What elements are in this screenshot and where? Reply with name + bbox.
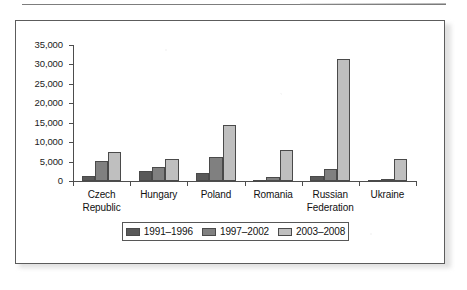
y-axis-tick-label: 5,000: [17, 157, 63, 167]
x-axis-category-label-line: Poland: [187, 189, 244, 202]
bar-5-1: [381, 179, 394, 181]
legend-label: 1991–1996: [144, 226, 193, 237]
x-axis-category-label-line: Russian: [302, 189, 359, 202]
x-axis-category-label: Hungary: [130, 189, 187, 202]
x-axis-category-tick: [187, 182, 188, 186]
bar-1-2: [165, 159, 178, 181]
bar-4-2: [337, 59, 350, 181]
x-axis-category-label-line: Hungary: [130, 189, 187, 202]
bar-0-0: [82, 176, 95, 181]
y-axis-tick-label: 20,000: [17, 98, 63, 108]
bar-3-1: [266, 177, 279, 181]
bar-4-0: [310, 176, 323, 181]
x-axis-category-label: Ukraine: [359, 189, 416, 202]
chart-legend: 1991–19961997–20022003–2008: [122, 222, 349, 241]
bar-1-0: [139, 171, 152, 181]
x-axis-category-label: Poland: [187, 189, 244, 202]
y-axis-tick-label: 10,000: [17, 137, 63, 147]
bar-1-1: [152, 167, 165, 181]
bar-0-1: [95, 161, 108, 181]
x-axis-category-label-line: Ukraine: [359, 189, 416, 202]
bar-5-0: [368, 180, 381, 182]
bar-chart-plot-area: 05,00010,00015,00020,00025,00030,00035,0…: [16, 21, 446, 265]
legend-swatch-icon: [202, 228, 216, 236]
x-axis-category-label-line: Republic: [73, 202, 130, 215]
y-axis-tick-mark: [69, 45, 73, 46]
y-axis-tick-label: 30,000: [17, 59, 63, 69]
legend-swatch-icon: [126, 228, 140, 236]
bar-3-0: [253, 180, 266, 182]
x-axis-category-tick: [130, 182, 131, 186]
y-axis-tick-label: 25,000: [17, 79, 63, 89]
x-axis-category-tick: [302, 182, 303, 186]
x-axis-category-tick: [73, 182, 74, 186]
x-axis-category-label: Romania: [245, 189, 302, 202]
x-axis-category-label-line: Romania: [245, 189, 302, 202]
x-axis-category-label: RussianFederation: [302, 189, 359, 214]
y-axis-tick-label: 0: [17, 176, 63, 186]
legend-entry-0[interactable]: 1991–1996: [126, 226, 193, 237]
y-axis-tick-mark: [69, 103, 73, 104]
chart-figure-frame: 05,00010,00015,00020,00025,00030,00035,0…: [15, 20, 445, 264]
y-axis-tick-mark: [69, 123, 73, 124]
x-axis-category-label-line: Federation: [302, 202, 359, 215]
y-axis-tick-mark: [69, 84, 73, 85]
legend-swatch-icon: [278, 228, 292, 236]
bar-4-1: [324, 169, 337, 181]
bar-2-2: [223, 125, 236, 181]
x-axis-category-label: CzechRepublic: [73, 189, 130, 214]
legend-entry-1[interactable]: 1997–2002: [202, 226, 269, 237]
figure-page: 05,00010,00015,00020,00025,00030,00035,0…: [0, 0, 467, 290]
page-top-rule-fade: [300, 3, 446, 5]
y-axis-line: [73, 45, 74, 182]
bar-5-2: [394, 159, 407, 181]
bar-2-0: [196, 173, 209, 181]
y-axis-tick-mark: [69, 162, 73, 163]
legend-entry-2[interactable]: 2003–2008: [278, 226, 345, 237]
y-axis-tick-mark: [69, 64, 73, 65]
legend-label: 1997–2002: [220, 226, 269, 237]
bar-2-1: [209, 157, 222, 181]
y-axis-tick-mark: [69, 142, 73, 143]
x-axis-category-tick: [359, 182, 360, 186]
x-axis-category-tick: [416, 182, 417, 186]
x-axis-category-tick: [245, 182, 246, 186]
bar-3-2: [280, 150, 293, 181]
bar-0-2: [108, 152, 121, 181]
y-axis-tick-label: 35,000: [17, 40, 63, 50]
x-axis-category-label-line: Czech: [73, 189, 130, 202]
y-axis-tick-label: 15,000: [17, 118, 63, 128]
legend-label: 2003–2008: [296, 226, 345, 237]
